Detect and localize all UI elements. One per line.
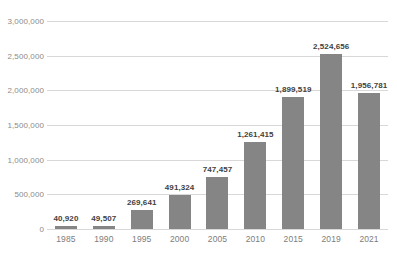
plot-area: 40,92049,507269,641491,324747,4571,261,4…	[47, 21, 388, 229]
y-axis-tick-label: 3,000,000	[8, 17, 45, 26]
bar-value-label: 1,899,519	[275, 85, 312, 94]
bar-value-label: 40,920	[53, 214, 78, 223]
bar-slot: 747,457	[199, 21, 237, 229]
bar[interactable]	[93, 226, 115, 229]
bar-value-label: 1,261,415	[237, 130, 274, 139]
x-axis-tick-label: 2000	[170, 234, 189, 244]
bar[interactable]	[320, 54, 342, 229]
bar-value-label: 269,641	[127, 198, 157, 207]
bar-slot: 49,507	[85, 21, 123, 229]
bar[interactable]	[206, 177, 228, 229]
bar-value-label: 2,524,656	[313, 42, 350, 51]
x-axis-tick-label: 2021	[359, 234, 378, 244]
bar-value-label: 1,956,781	[351, 81, 388, 90]
bar-value-label: 747,457	[203, 165, 233, 174]
bar-slot: 269,641	[123, 21, 161, 229]
x-axis-tick-label: 1985	[56, 234, 75, 244]
x-axis-tick-label: 1990	[94, 234, 113, 244]
bar[interactable]	[131, 210, 153, 229]
y-axis-tick-label: 500,000	[14, 190, 44, 199]
bar-slot: 2,524,656	[312, 21, 350, 229]
bar[interactable]	[244, 142, 266, 229]
y-axis-tick-label: 1,500,000	[8, 121, 45, 130]
bar[interactable]	[282, 97, 304, 229]
bar-slot: 1,261,415	[236, 21, 274, 229]
x-axis-tick-label: 2005	[208, 234, 227, 244]
x-axis-tick-label: 1995	[132, 234, 151, 244]
bar-slot: 40,920	[47, 21, 85, 229]
bar-slot: 1,899,519	[274, 21, 312, 229]
bar[interactable]	[169, 195, 191, 229]
bar-value-label: 49,507	[91, 214, 116, 223]
y-axis-tick-label: 0	[39, 225, 44, 234]
x-axis-tick-label: 2010	[246, 234, 265, 244]
y-axis-tick-label: 2,500,000	[8, 51, 45, 60]
bar[interactable]	[358, 93, 380, 229]
bar-chart: 0500,0001,000,0001,500,0002,000,0002,500…	[0, 0, 397, 258]
y-axis-tick-label: 1,000,000	[8, 155, 45, 164]
x-axis-tick-label: 2019	[322, 234, 341, 244]
bar-slot: 1,956,781	[350, 21, 388, 229]
x-axis-tick-label: 2015	[284, 234, 303, 244]
bar[interactable]	[55, 226, 77, 229]
y-axis-tick-label: 2,000,000	[8, 86, 45, 95]
bar-value-label: 491,324	[165, 183, 195, 192]
bar-slot: 491,324	[161, 21, 199, 229]
chart-title	[0, 0, 397, 4]
gridline	[47, 229, 388, 230]
